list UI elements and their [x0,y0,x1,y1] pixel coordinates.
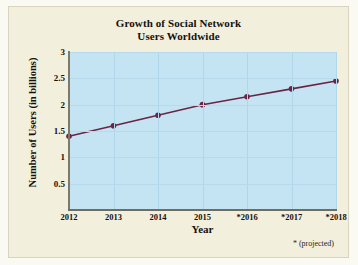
x-axis-tick-label: *2017 [281,212,302,222]
grid-line-horizontal [69,131,336,132]
y-axis-label: Number of Users (in billions) [27,48,38,198]
y-axis-tick-label: 2 [41,100,65,110]
x-axis-label: Year [69,223,336,235]
y-axis-tick-label: 1.5 [41,126,65,136]
x-axis-tick-label: *2016 [236,212,257,222]
x-axis-tick-label: 2012 [61,212,78,222]
x-axis-tick-label: 2014 [150,212,167,222]
x-axis-tick-label: 2013 [105,212,122,222]
grid-line-horizontal [69,52,336,53]
projected-footnote: * (projected) [293,239,334,248]
x-axis-tick-label: *2018 [325,212,346,222]
y-axis-tick-label: 3 [41,47,65,57]
y-axis-tick-label: 2.5 [41,73,65,83]
chart-figure: Growth of Social Network Users Worldwide… [8,6,349,258]
grid-line-vertical [336,52,337,210]
y-axis-tick-label: 0.5 [41,179,65,189]
grid-line-horizontal [69,105,336,106]
grid-line-horizontal [69,78,336,79]
y-axis-line [68,51,70,211]
y-axis-tick-label: 1 [41,152,65,162]
grid-line-horizontal [69,184,336,185]
x-axis-tick-label: 2015 [194,212,211,222]
plot-area [69,52,336,210]
grid-line-horizontal [69,157,336,158]
x-axis-line [68,209,337,211]
